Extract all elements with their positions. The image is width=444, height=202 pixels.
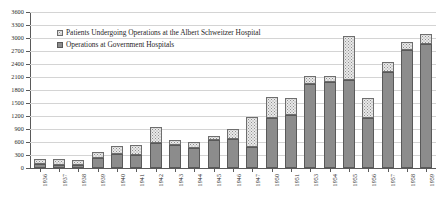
x-axis-tick xyxy=(194,169,195,172)
x-axis-tick xyxy=(272,169,273,172)
x-axis-tick xyxy=(368,169,369,172)
x-axis-tick xyxy=(310,169,311,172)
x-axis-tick-label: 1940 xyxy=(120,174,126,186)
bar-group xyxy=(401,12,413,168)
x-axis-tick-label: 1954 xyxy=(332,174,338,186)
y-axis-tick-label: 1800 xyxy=(11,87,24,93)
y-axis-tick-label: 900 xyxy=(14,126,24,132)
y-axis-labels: 3600330030002700240021001800150012009006… xyxy=(0,0,30,202)
x-axis-tick-label: 1938 xyxy=(81,174,87,186)
bar-segment-government xyxy=(150,143,162,168)
bar-group xyxy=(324,12,336,168)
bar-segment-government xyxy=(130,155,142,168)
bar-group xyxy=(304,12,316,168)
legend-item-albert: Patients Undergoing Operations at the Al… xyxy=(57,27,261,38)
bar-group xyxy=(266,12,278,168)
bar-segment-government xyxy=(304,84,316,168)
bar-group xyxy=(420,12,432,168)
bar-segment-government xyxy=(53,165,65,168)
y-axis-tick-label: 600 xyxy=(14,139,24,145)
x-axis-tick xyxy=(330,169,331,172)
y-axis-tick-label: 1200 xyxy=(11,113,24,119)
x-axis-tick xyxy=(78,169,79,172)
x-axis-tick-label: 1951 xyxy=(294,174,300,186)
x-axis-tick xyxy=(214,169,215,172)
bar-segment-government xyxy=(343,80,355,168)
bar-segment-albert-schweitzer xyxy=(246,117,258,147)
chart-legend: Patients Undergoing Operations at the Al… xyxy=(57,27,261,51)
x-axis-tick-label: 1937 xyxy=(62,174,68,186)
bar-segment-albert-schweitzer xyxy=(111,146,123,153)
bar-segment-albert-schweitzer xyxy=(72,160,84,165)
bar-segment-albert-schweitzer xyxy=(208,136,220,140)
x-axis-tick-label: 1959 xyxy=(429,174,435,186)
x-axis-tick-label: 1956 xyxy=(371,174,377,186)
x-axis-tick-label: 1958 xyxy=(410,174,416,186)
y-axis-tick-label: 300 xyxy=(14,152,24,158)
x-axis-tick-label: 1942 xyxy=(158,174,164,186)
x-axis-tick-label: 1946 xyxy=(236,174,242,186)
bar-group xyxy=(362,12,374,168)
bar-segment-albert-schweitzer xyxy=(285,98,297,115)
x-axis-tick xyxy=(291,169,292,172)
bar-segment-albert-schweitzer xyxy=(34,159,46,164)
x-axis-tick-label: 1943 xyxy=(178,174,184,186)
y-axis-tick-label: 1500 xyxy=(11,100,24,106)
bar-segment-government xyxy=(92,158,104,168)
x-axis-tick xyxy=(136,169,137,172)
bar-segment-government xyxy=(420,44,432,168)
legend-label-albert: Patients Undergoing Operations at the Al… xyxy=(66,29,261,36)
bar-segment-government xyxy=(285,115,297,168)
x-axis-tick-label: 1953 xyxy=(313,174,319,186)
bar-segment-albert-schweitzer xyxy=(92,152,104,159)
x-axis-labels: 1936193719381939194019411942194319441945… xyxy=(30,169,436,202)
bar-segment-albert-schweitzer xyxy=(130,145,142,155)
x-axis-tick-label: 1957 xyxy=(390,174,396,186)
bar-segment-government xyxy=(401,50,413,168)
x-axis-tick-label: 1939 xyxy=(100,174,106,186)
y-axis-tick-label: 3000 xyxy=(11,35,24,41)
x-axis-tick-label: 1950 xyxy=(274,174,280,186)
bar-segment-albert-schweitzer xyxy=(343,36,355,80)
x-axis-tick-label: 1936 xyxy=(42,174,48,186)
x-axis-tick-label: 1941 xyxy=(139,174,145,186)
bar-segment-government xyxy=(72,165,84,168)
bar-segment-albert-schweitzer xyxy=(420,34,432,44)
y-axis-tick-label: 0 xyxy=(21,165,24,171)
x-axis-tick xyxy=(252,169,253,172)
y-axis-tick-label: 2100 xyxy=(11,74,24,80)
bar-segment-government xyxy=(324,82,336,168)
x-axis-tick xyxy=(175,169,176,172)
bar-segment-government xyxy=(246,147,258,168)
bar-segment-government xyxy=(111,154,123,168)
x-axis-tick xyxy=(407,169,408,172)
legend-swatch-albert-icon xyxy=(57,30,63,36)
bar-segment-government xyxy=(169,145,181,168)
bar-segment-albert-schweitzer xyxy=(188,142,200,147)
bar-segment-government xyxy=(227,139,239,168)
bar-group xyxy=(34,12,46,168)
x-axis-tick xyxy=(156,169,157,172)
bar-segment-government xyxy=(34,164,46,168)
x-axis-tick-label: 1947 xyxy=(255,174,261,186)
bar-group xyxy=(382,12,394,168)
x-axis-tick-label: 1945 xyxy=(216,174,222,186)
bar-segment-albert-schweitzer xyxy=(227,129,239,139)
stacked-bar-chart: 3600330030002700240021001800150012009006… xyxy=(0,0,444,202)
x-axis-tick xyxy=(388,169,389,172)
bar-segment-albert-schweitzer xyxy=(169,140,181,144)
x-axis-tick xyxy=(98,169,99,172)
x-axis-tick xyxy=(40,169,41,172)
bar-segment-albert-schweitzer xyxy=(362,98,374,118)
legend-item-government: Operations at Government Hospitals xyxy=(57,39,261,50)
bar-segment-government xyxy=(266,118,278,168)
bar-segment-albert-schweitzer xyxy=(382,62,394,72)
bar-segment-albert-schweitzer xyxy=(401,42,413,50)
bar-segment-government xyxy=(188,148,200,168)
x-axis-tick xyxy=(117,169,118,172)
x-axis-tick xyxy=(233,169,234,172)
y-axis-tick-label: 3600 xyxy=(11,9,24,15)
y-axis-tick-label: 2700 xyxy=(11,48,24,54)
bar-group xyxy=(343,12,355,168)
legend-label-government: Operations at Government Hospitals xyxy=(66,41,174,48)
